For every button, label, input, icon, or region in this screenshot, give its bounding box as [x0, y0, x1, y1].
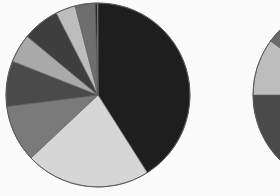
pie-chart-2-partial: Seg A: 30Seg B: 45Seg C: 10Seg D: 15 [253, 3, 280, 187]
pie-chart-1: Slice 1: 41Slice 2: 22Slice 3: 10Slice 4… [6, 3, 190, 187]
pie-charts: Slice 1: 41Slice 2: 22Slice 3: 10Slice 4… [0, 0, 280, 196]
pie-slice: Seg B: 45 [253, 95, 280, 187]
chart-area: Slice 1: 41Slice 2: 22Slice 3: 10Slice 4… [0, 0, 280, 196]
